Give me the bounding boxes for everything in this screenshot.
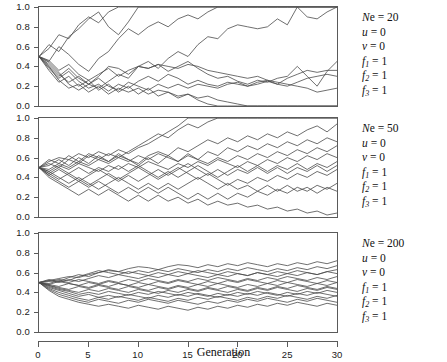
- trajectory-lines-ne-200: [39, 233, 337, 332]
- y-tick-mark: [34, 253, 38, 254]
- legend-row: f1 = 1: [362, 280, 404, 295]
- panel-ne-20: Ne = 20u = 0v = 0f1 = 1f2 = 1f3 = 1: [0, 0, 447, 112]
- y-tick-label: 0.4: [0, 171, 30, 182]
- y-tick-label: 0.0: [0, 326, 30, 337]
- legend-row: f2 = 1: [362, 294, 404, 309]
- y-tick-label: 0.8: [0, 21, 30, 32]
- y-tick-mark: [34, 273, 38, 274]
- y-tick-mark: [34, 138, 38, 139]
- trajectory-line: [39, 168, 337, 216]
- trajectory-lines-ne-20: [39, 7, 337, 106]
- y-tick-mark: [34, 332, 38, 333]
- y-tick-mark: [34, 7, 38, 8]
- trajectory-line: [39, 118, 337, 168]
- plot-area-ne-50: [38, 117, 338, 218]
- trajectory-line: [39, 7, 337, 84]
- y-tick-label: 0.8: [0, 247, 30, 258]
- panel-ne-200: Ne = 200u = 0v = 0f1 = 1f2 = 1f3 = 1: [0, 228, 447, 342]
- trajectory-line: [39, 261, 337, 283]
- y-tick-mark: [34, 106, 38, 107]
- plot-area-ne-20: [38, 6, 338, 107]
- legend-ne-20: Ne = 20u = 0v = 0f1 = 1f2 = 1f3 = 1: [362, 10, 399, 97]
- trajectory-lines-ne-50: [39, 118, 337, 217]
- legend-ne-200: Ne = 200u = 0v = 0f1 = 1f2 = 1f3 = 1: [362, 236, 404, 323]
- y-tick-label: 1.0: [0, 1, 30, 12]
- y-tick-mark: [34, 118, 38, 119]
- y-tick-mark: [34, 86, 38, 87]
- y-tick-label: 0.4: [0, 286, 30, 297]
- y-tick-mark: [34, 47, 38, 48]
- y-tick-mark: [34, 177, 38, 178]
- trajectory-line: [39, 7, 337, 57]
- legend-row: v = 0: [362, 265, 404, 280]
- legend-row: v = 0: [362, 39, 399, 54]
- legend-row: f2 = 1: [362, 179, 399, 194]
- trajectory-line: [39, 7, 337, 57]
- legend-row: f1 = 1: [362, 54, 399, 69]
- legend-row: Ne = 50: [362, 121, 399, 136]
- legend-row: f1 = 1: [362, 165, 399, 180]
- y-tick-label: 0.2: [0, 191, 30, 202]
- legend-row: Ne = 20: [362, 10, 399, 25]
- y-tick-label: 0.8: [0, 132, 30, 143]
- y-tick-label: 0.6: [0, 267, 30, 278]
- legend-row: v = 0: [362, 150, 399, 165]
- y-tick-label: 0.6: [0, 152, 30, 163]
- legend-row: u = 0: [362, 251, 404, 266]
- y-tick-label: 0.4: [0, 60, 30, 71]
- y-tick-label: 0.0: [0, 100, 30, 111]
- y-tick-label: 1.0: [0, 227, 30, 238]
- legend-row: f3 = 1: [362, 83, 399, 98]
- legend-row: f3 = 1: [362, 309, 404, 324]
- y-tick-mark: [34, 197, 38, 198]
- legend-row: f2 = 1: [362, 68, 399, 83]
- legend-row: u = 0: [362, 25, 399, 40]
- legend-row: Ne = 200: [362, 236, 404, 251]
- legend-row: u = 0: [362, 136, 399, 151]
- y-tick-mark: [34, 312, 38, 313]
- y-tick-label: 1.0: [0, 112, 30, 123]
- y-tick-mark: [34, 66, 38, 67]
- y-tick-label: 0.2: [0, 306, 30, 317]
- panel-ne-50: Ne = 50u = 0v = 0f1 = 1f2 = 1f3 = 1: [0, 113, 447, 227]
- y-tick-mark: [34, 158, 38, 159]
- x-axis-title: Generation: [0, 345, 447, 360]
- legend-row: f3 = 1: [362, 194, 399, 209]
- trajectory-line: [39, 154, 337, 172]
- y-tick-label: 0.2: [0, 80, 30, 91]
- legend-ne-50: Ne = 50u = 0v = 0f1 = 1f2 = 1f3 = 1: [362, 121, 399, 208]
- y-tick-label: 0.0: [0, 211, 30, 222]
- trajectory-line: [39, 283, 337, 302]
- y-tick-mark: [34, 233, 38, 234]
- drift-simulation-figure: Ne = 20u = 0v = 0f1 = 1f2 = 1f3 = 1 Ne =…: [0, 0, 447, 362]
- y-tick-mark: [34, 217, 38, 218]
- plot-area-ne-200: [38, 232, 338, 333]
- y-tick-label: 0.6: [0, 41, 30, 52]
- y-tick-mark: [34, 27, 38, 28]
- y-tick-mark: [34, 292, 38, 293]
